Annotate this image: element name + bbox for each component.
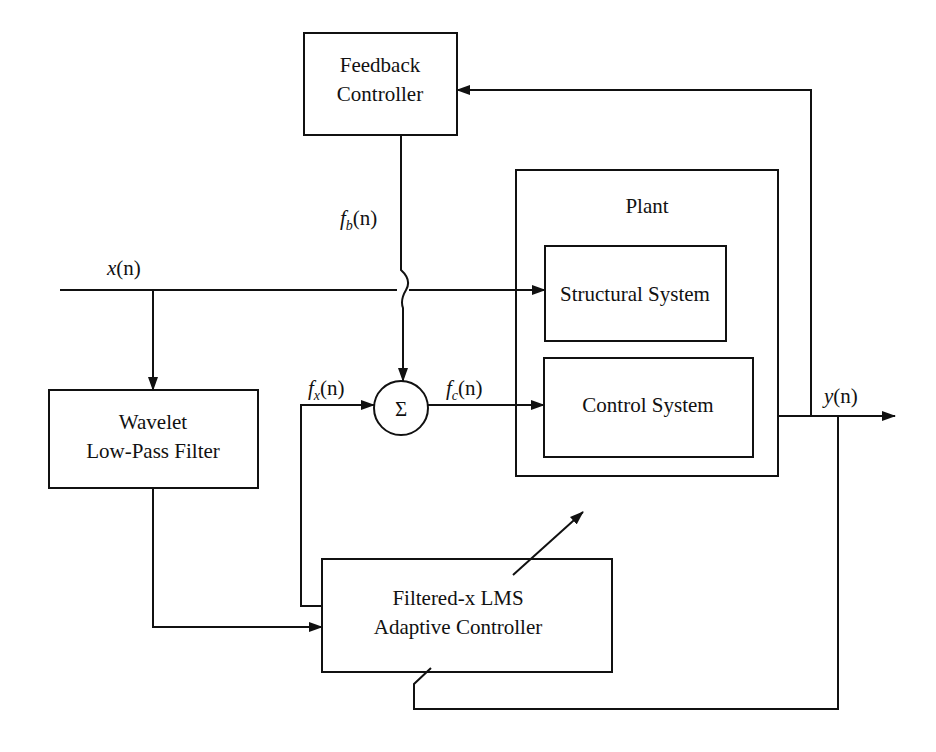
sigma-symbol: Σ <box>395 397 407 421</box>
feedback-controller-label-1: Feedback <box>340 53 421 77</box>
adaptive-controller-block: Filtered-x LMS Adaptive Controller <box>322 559 612 672</box>
feedback-controller-label-2: Controller <box>337 82 423 106</box>
fx-signal-label: fx(n) <box>308 376 345 403</box>
adaptive-controller-label-2: Adaptive Controller <box>374 615 543 639</box>
feedback-controller-block: Feedback Controller <box>304 33 457 135</box>
block-diagram: Feedback Controller Plant Structural Sys… <box>0 0 936 752</box>
summing-junction: Σ <box>374 381 428 435</box>
wavelet-filter-label-1: Wavelet <box>119 410 187 434</box>
fb-signal-line <box>401 135 408 381</box>
fb-signal-label: fb(n) <box>340 206 377 233</box>
wavelet-filter-block: Wavelet Low-Pass Filter <box>49 390 258 488</box>
adaptive-controller-label-1: Filtered-x LMS <box>392 586 523 610</box>
wavelet-to-adaptive-arrow <box>153 488 322 627</box>
structural-system-label: Structural System <box>560 282 710 306</box>
control-system-label: Control System <box>582 393 713 417</box>
y-signal-label: y(n) <box>822 384 858 408</box>
control-system-block: Control System <box>544 358 753 457</box>
structural-system-block: Structural System <box>545 246 726 341</box>
x-signal-label: x(n) <box>106 256 141 280</box>
plant-title: Plant <box>625 194 668 218</box>
wavelet-filter-label-2: Low-Pass Filter <box>86 439 220 463</box>
fc-signal-label: fc(n) <box>446 376 483 403</box>
